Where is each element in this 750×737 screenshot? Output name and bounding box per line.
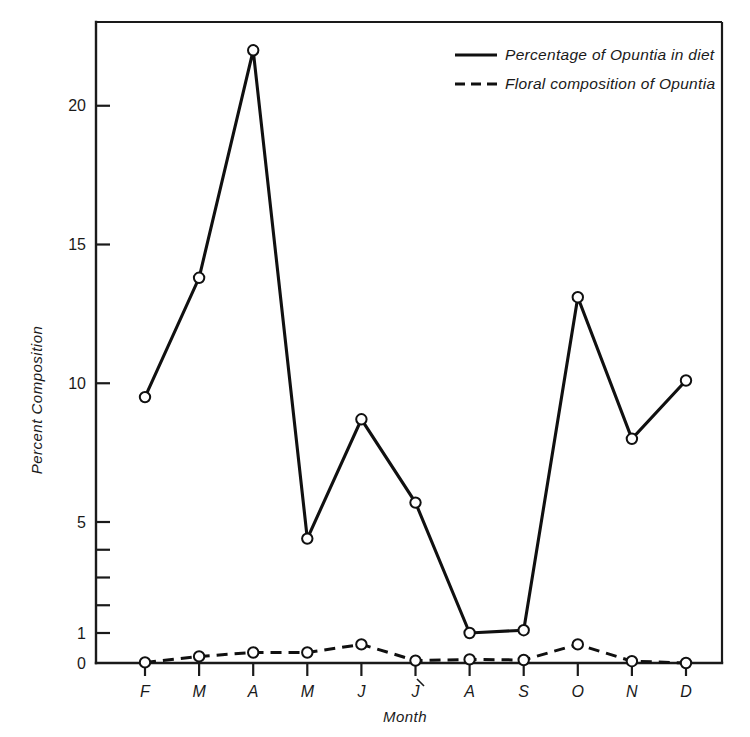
x-tick-label-10: D [680, 683, 692, 700]
x-tick-label-9: N [626, 683, 638, 700]
plot-frame [96, 22, 722, 663]
y-tick-label-15: 15 [68, 236, 86, 253]
x-tick-label-1: M [192, 683, 206, 700]
data-point-s0-M [194, 273, 204, 283]
data-point-s1-J [356, 639, 366, 649]
x-axis-ticks: FMAMJJASOND [140, 663, 692, 700]
x-tick-label-2: A [247, 683, 259, 700]
y-tick-label-20: 20 [68, 97, 86, 114]
y-tick-label-1: 1 [77, 625, 86, 642]
x-tick-label-7: S [518, 683, 529, 700]
data-point-s0-F [140, 392, 150, 402]
x-tick-label-8: O [572, 683, 584, 700]
data-point-s1-J [410, 655, 420, 665]
y-tick-label-0: 0 [77, 655, 86, 672]
legend-label-floral: Floral composition of Opuntia [505, 75, 715, 92]
y-tick-label-5: 5 [77, 514, 86, 531]
data-point-s0-S [519, 625, 529, 635]
y-axis-title: Percent Composition [28, 326, 45, 475]
data-series-layer [140, 45, 691, 668]
data-point-s0-A [464, 628, 474, 638]
data-point-s1-N [627, 656, 637, 666]
x-tick-label-4: J [356, 683, 366, 700]
y-tick-label-10: 10 [68, 375, 86, 392]
data-point-s1-D [681, 658, 691, 668]
data-point-s1-M [194, 651, 204, 661]
chart-canvas: 201510510 FMAMJJASOND Percent Compositio… [0, 0, 750, 737]
data-point-s0-J [356, 414, 366, 424]
x-axis-title: Month [383, 708, 427, 725]
data-point-s1-S [519, 655, 529, 665]
data-point-s1-O [573, 639, 583, 649]
x-tick-label-5: J [411, 683, 421, 700]
data-point-s1-M [302, 647, 312, 657]
data-point-s1-A [248, 647, 258, 657]
data-point-s0-M [302, 533, 312, 543]
chart-legend: Percentage of Opuntia in diet Floral com… [455, 46, 715, 92]
x-tick-label-0: F [140, 683, 151, 700]
legend-label-diet: Percentage of Opuntia in diet [505, 46, 715, 63]
data-point-s1-A [464, 654, 474, 664]
data-point-s0-J [410, 497, 420, 507]
data-point-s0-D [681, 375, 691, 385]
data-point-s1-F [140, 657, 150, 667]
x-tick-label-3: M [301, 683, 315, 700]
data-point-s0-N [627, 434, 637, 444]
data-point-s0-O [573, 292, 583, 302]
series-line-0 [145, 50, 686, 633]
chart-figure: 201510510 FMAMJJASOND Percent Compositio… [0, 0, 750, 737]
x-tick-label-6: A [463, 683, 475, 700]
y-axis-ticks: 201510510 [68, 97, 110, 671]
data-point-s0-A [248, 45, 258, 55]
